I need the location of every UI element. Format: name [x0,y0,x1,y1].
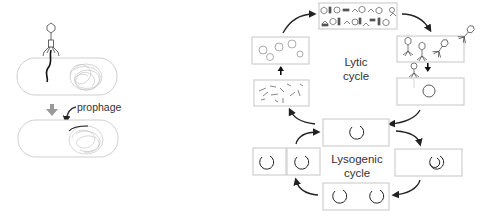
lytic-cycle-title-line2: cycle [343,70,369,82]
infecting-phage-icon [409,63,419,78]
left-panel: prophage [17,23,122,157]
stage-dna-replication [254,80,309,106]
down-arrow-icon [425,63,432,72]
prophage-pointer-arrow [66,107,76,121]
stage-daughter-cell-1 [253,148,286,175]
lysogenic-cycle-title-line2: cycle [344,167,370,179]
stage-infection [397,78,464,105]
arrow-daughters-to-lysogen [296,132,318,144]
prophage-label: prophage [77,101,122,113]
lytic-cycle: Lytic cycle [252,3,477,124]
arrow-synthesis-to-release [402,14,430,30]
lysogenic-cycle-title: Lysogenic [331,153,383,165]
stage-daughter-cell-2 [287,148,320,175]
lysogenic-cycle: Lysogenic cycle [253,119,462,210]
lytic-cycle-title: Lytic [344,56,367,68]
arrow-cell-to-replication [290,110,315,124]
stage-lysogen-cell [323,119,389,146]
stage-prophage-integration [395,149,462,176]
arrow-integration-to-division [394,180,420,195]
up-arrow-icon [278,66,285,75]
arrow-assembly-to-synthesis [283,14,314,33]
down-arrow-icon [46,104,58,116]
phage-life-cycle-diagram: prophage [0,0,487,219]
arrow-infection-to-cell [390,110,420,124]
arrow-lysogen-to-integration [396,131,420,144]
arrow-division-to-daughters [296,180,318,195]
